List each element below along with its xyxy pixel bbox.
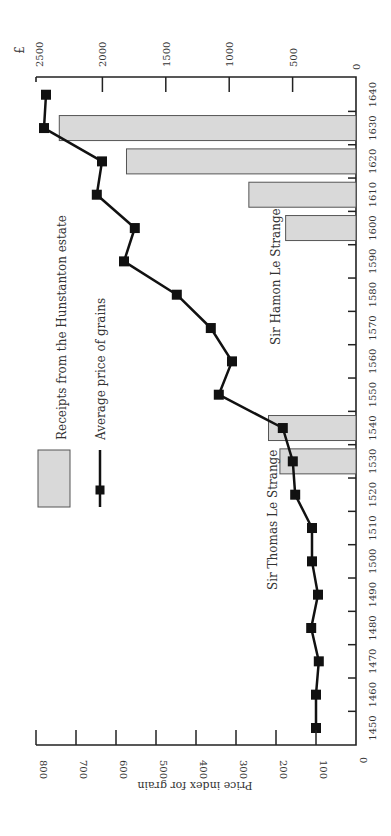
line-marker [307,523,317,533]
y2-tick-label: 1000 [224,42,235,67]
legend-bar-label: Receipts from the Hunstanton estate [55,215,69,440]
x-tick-label: 1540 [367,415,378,440]
y2-axis-unit: £ [13,46,27,54]
line-marker [313,590,323,600]
y2-tick-label: 500 [288,48,299,67]
line-marker [97,156,107,166]
line-marker [214,390,224,400]
x-tick-label: 1490 [367,582,378,607]
annotation-hamon: Sir Hamon Le Strange [269,208,283,345]
line-marker [206,323,216,333]
line-marker [290,490,300,500]
x-tick-label: 1520 [367,482,378,507]
line-marker [119,256,129,266]
x-tick-label: 1510 [367,515,378,540]
y-tick-label: 300 [238,760,249,779]
x-tick-label: 1550 [367,382,378,407]
line-marker [314,656,324,666]
x-tick-label: 1580 [367,282,378,307]
y-tick-label: 400 [198,760,209,779]
annotation-thomas: Sir Thomas Le Strange [266,450,280,590]
x-tick-label: 1450 [367,715,378,740]
legend: Receipts from the Hunstanton estate Aver… [38,215,108,507]
y-tick-label: 500 [158,760,169,779]
x-tick-label: 1470 [367,649,378,674]
line-marker [288,456,298,466]
y-tick-label: 0 [358,757,369,763]
y2-tick-label: 0 [351,64,362,70]
legend-bar-swatch [38,450,70,507]
legend-marker-icon [96,486,105,495]
line-marker [130,223,140,233]
x-tick-label: 1530 [367,449,378,474]
line-marker [92,190,102,200]
chart: 1450146014701480149015001510152015301540… [0,0,391,836]
x-tick-label: 1600 [367,215,378,240]
x-tick-label: 1480 [367,615,378,640]
line-marker [278,423,288,433]
x-tick-label: 1460 [367,682,378,707]
receipts-bar [286,216,356,241]
line-marker [172,290,182,300]
receipts-bar [249,182,356,207]
line-marker [306,623,316,633]
y-axis-title: Price index for grain [137,779,252,792]
y-tick-label: 100 [318,760,329,779]
y2-tick-label: 1500 [161,42,172,67]
x-tick-label: 1620 [367,149,378,174]
line-marker [41,90,51,100]
x-tick-label: 1560 [367,349,378,374]
x-tick-label: 1630 [367,115,378,140]
x-tick-label: 1610 [367,182,378,207]
y2-tick-label: 2000 [97,42,108,67]
x-tick-label: 1500 [367,549,378,574]
y-tick-label: 800 [38,760,49,779]
y-tick-label: 200 [278,760,289,779]
x-tick-label: 1570 [367,315,378,340]
plot-frame [36,77,356,745]
line-marker [39,123,49,133]
y-tick-label: 600 [118,760,129,779]
receipts-bar [59,116,356,141]
y2-tick-label: 2500 [34,42,45,67]
x-tick-label: 1640 [367,82,378,107]
y-tick-label: 700 [78,760,89,779]
line-marker [227,356,237,366]
receipts-bar [126,149,356,174]
line-marker [307,556,317,566]
legend-line-label: Average price of grains [94,298,108,441]
line-marker [311,690,321,700]
x-tick-label: 1590 [367,249,378,274]
